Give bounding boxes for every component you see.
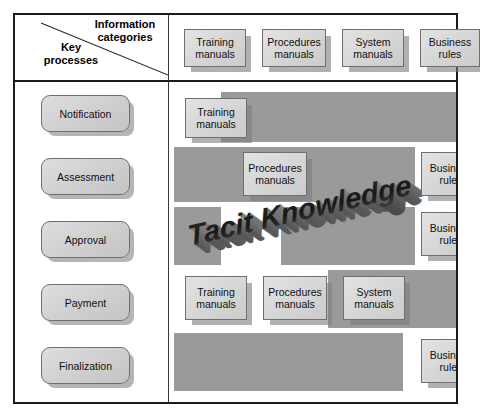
row-band-notification xyxy=(221,92,456,142)
row-header-approval[interactable]: Approval xyxy=(41,221,130,258)
row-header-column: Notification Assessment Approval Payment… xyxy=(15,82,168,402)
row-header-label: Payment xyxy=(65,297,106,309)
cell-payment-system-manuals[interactable]: System manuals xyxy=(343,276,405,320)
cell-approval-business-rules[interactable]: Business rules xyxy=(421,212,456,256)
column-header-procedures-manuals[interactable]: Procedures manuals xyxy=(262,29,326,67)
row-header-label: Assessment xyxy=(57,171,114,183)
cell-payment-training-manuals[interactable]: Training manuals xyxy=(185,276,247,320)
row-header-label: Approval xyxy=(65,234,106,246)
cell-notification-training-manuals[interactable]: Training manuals xyxy=(185,98,247,138)
column-header-system-manuals[interactable]: System manuals xyxy=(342,29,404,67)
row-header-assessment[interactable]: Assessment xyxy=(41,158,130,195)
cell-label: Business rules xyxy=(430,162,456,187)
row-header-label: Finalization xyxy=(59,360,112,372)
row-header-finalization[interactable]: Finalization xyxy=(41,347,130,384)
row-header-notification[interactable]: Notification xyxy=(41,95,130,132)
column-header-label: Business rules xyxy=(429,36,472,61)
column-header-training-manuals[interactable]: Training manuals xyxy=(184,29,246,67)
cell-label: Training manuals xyxy=(196,286,236,311)
column-header-label: System manuals xyxy=(353,36,393,61)
row-header-payment[interactable]: Payment xyxy=(41,284,130,321)
legend-key-processes-label: Key processes xyxy=(31,41,111,67)
column-header-business-rules[interactable]: Business rules xyxy=(420,29,480,67)
column-header-label: Training manuals xyxy=(195,36,235,61)
cell-label: Procedures manuals xyxy=(268,286,322,311)
cell-payment-procedures-manuals[interactable]: Procedures manuals xyxy=(263,276,327,320)
column-header-row: Training manuals Procedures manuals Syst… xyxy=(168,15,456,80)
cell-label: Training manuals xyxy=(196,106,236,131)
cell-assessment-procedures-manuals[interactable]: Procedures manuals xyxy=(243,152,307,196)
diagram-frame: Information categories Key processes Tra… xyxy=(13,13,458,404)
corner-legend: Information categories Key processes xyxy=(15,15,168,80)
cell-label: Procedures manuals xyxy=(248,162,302,187)
row-band-assessment xyxy=(174,147,456,202)
cell-label: Business rules xyxy=(430,349,456,374)
cell-label: Business rules xyxy=(430,222,456,247)
cell-assessment-business-rules[interactable]: Business rules xyxy=(421,152,456,196)
cell-label: System manuals xyxy=(354,286,394,311)
cell-finalization-business-rules[interactable]: Business rules xyxy=(421,339,456,383)
row-band-approval xyxy=(174,207,456,265)
matrix-panel: Tacit Knowledge Tacit Knowledge Tacit Kn… xyxy=(169,82,456,402)
column-header-label: Procedures manuals xyxy=(267,36,321,61)
row-band-finalization xyxy=(174,333,403,391)
diagram-header: Information categories Key processes Tra… xyxy=(15,15,456,80)
row-header-label: Notification xyxy=(60,108,112,120)
cell-notch xyxy=(221,206,281,268)
